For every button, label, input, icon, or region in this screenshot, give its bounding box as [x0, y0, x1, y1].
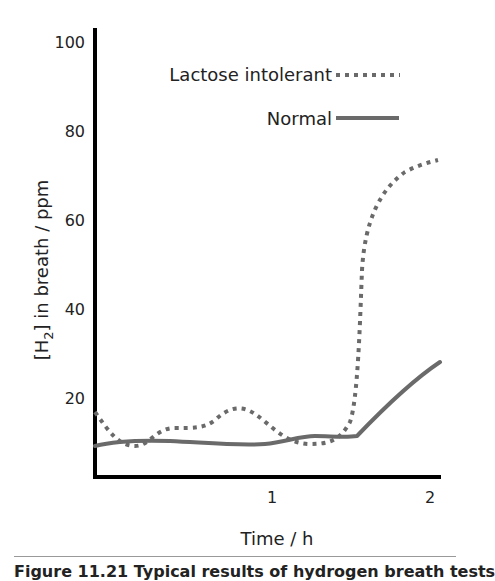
figure-caption: Figure 11.21 Typical results of hydrogen… — [14, 562, 495, 581]
x-axis-title: Time / h — [240, 528, 314, 549]
y-tick-100: 100 — [54, 33, 85, 52]
series-normal-line — [95, 362, 440, 446]
y-tick-20: 20 — [65, 389, 85, 408]
y-tick-60: 60 — [65, 211, 85, 230]
caption-divider — [14, 556, 456, 557]
y-axis-title: [H2] in breath / ppm — [31, 180, 56, 361]
legend-normal-label: Normal — [267, 108, 332, 129]
y-tick-40: 40 — [65, 300, 85, 319]
x-tick-1: 1 — [267, 488, 277, 507]
x-tick-2: 2 — [425, 488, 435, 507]
y-tick-80: 80 — [65, 122, 85, 141]
legend-lactose-label: Lactose intolerant — [169, 64, 332, 85]
series-lactose-line — [95, 160, 438, 446]
